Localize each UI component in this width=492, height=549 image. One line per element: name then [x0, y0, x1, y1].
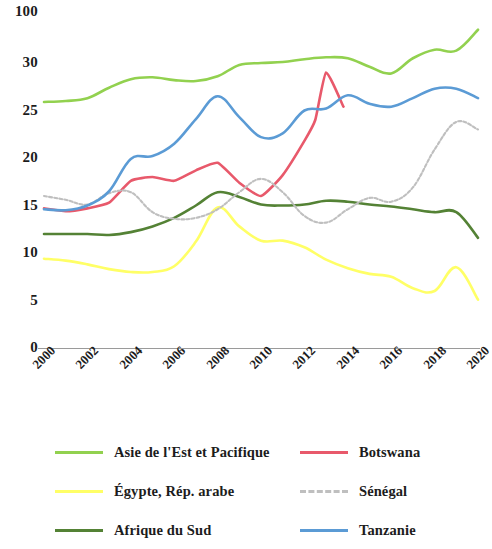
legend-item[interactable]: Tanzanie — [300, 520, 416, 540]
legend-label: Afrique du Sud — [114, 522, 211, 539]
legend-swatch — [55, 490, 103, 493]
legend-label: Égypte, Rép. arabe — [114, 483, 234, 500]
legend-item[interactable]: Botswana — [300, 442, 420, 462]
legend-swatch — [300, 490, 348, 493]
legend-label: Asie de l'Est et Pacifique — [114, 444, 270, 461]
legend-label: Botswana — [359, 444, 420, 461]
series-line — [44, 192, 478, 238]
x-axis: 2000200220042006200820102012201420162018… — [0, 352, 480, 412]
legend-item[interactable]: Asie de l'Est et Pacifique — [55, 442, 270, 462]
series-line — [44, 207, 478, 299]
legend-swatch — [55, 529, 103, 532]
series-lines — [0, 0, 480, 360]
series-line — [44, 87, 478, 210]
legend-swatch — [300, 529, 348, 532]
legend-swatch — [300, 451, 348, 454]
legend-item[interactable]: Afrique du Sud — [55, 520, 211, 540]
legend-label: Tanzanie — [359, 522, 416, 539]
series-line — [44, 72, 343, 211]
chart-legend: Asie de l'Est et PacifiqueBotswanaÉgypte… — [0, 432, 480, 549]
legend-item[interactable]: Égypte, Rép. arabe — [55, 481, 234, 501]
legend-item[interactable]: Sénégal — [300, 481, 407, 501]
legend-swatch — [55, 451, 103, 454]
legend-label: Sénégal — [359, 483, 407, 500]
series-line — [44, 30, 478, 102]
plot-area: 302520151050100 — [0, 0, 480, 360]
